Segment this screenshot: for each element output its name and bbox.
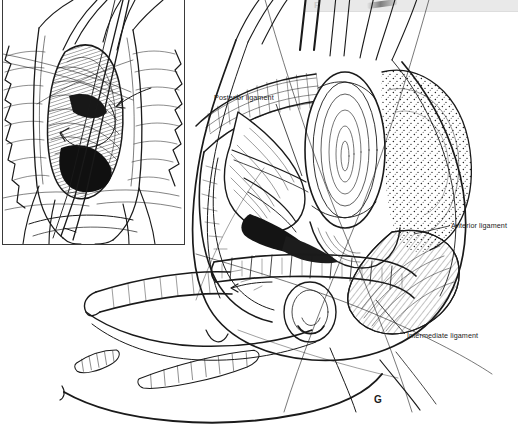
inset-anatomical-illustration [3,0,184,244]
inset-panel-operative-field [2,0,185,245]
label-anterior-ligament: Anterior ligament [451,221,507,230]
figure-root: F [0,0,518,430]
label-intermediate-ligament: Intermediate ligament [407,331,478,340]
panel-letter-g: G [374,394,382,405]
label-posterior-ligament: Posterior ligament [214,93,274,102]
